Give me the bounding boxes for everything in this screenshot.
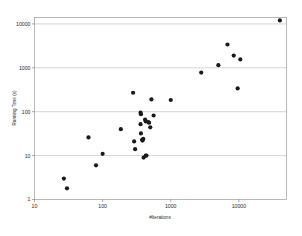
x-tick-label: 10000: [232, 203, 247, 209]
x-tick-label: 1000: [165, 203, 177, 209]
data-point: [216, 63, 220, 67]
scatter-plot-figure: 10100100010000 110100100010000 #Iteratio…: [0, 0, 302, 236]
data-point: [238, 57, 242, 61]
y-tick-label: 10000: [16, 21, 31, 27]
y-axis-title: Running Time (s): [12, 90, 17, 125]
data-point: [199, 70, 203, 74]
data-point: [236, 86, 240, 90]
data-point: [132, 139, 136, 143]
data-point: [148, 125, 152, 129]
data-point: [144, 154, 148, 158]
data-point: [139, 131, 143, 135]
data-point: [119, 127, 123, 131]
y-tick-label: 100: [22, 109, 31, 115]
data-point: [62, 176, 66, 180]
x-tick-label: 10: [32, 203, 38, 209]
chart-background: [0, 0, 302, 236]
data-point: [278, 18, 282, 22]
x-tick-label: 100: [98, 203, 107, 209]
data-point: [138, 122, 142, 126]
x-axis-title: #Iterations: [149, 215, 171, 220]
data-point: [169, 98, 173, 102]
data-point: [225, 42, 229, 46]
data-point: [86, 135, 90, 139]
data-point: [152, 113, 156, 117]
data-point: [149, 97, 153, 101]
data-point: [232, 53, 236, 57]
data-point: [65, 186, 69, 190]
y-tick-label: 1000: [19, 65, 31, 71]
data-point: [133, 147, 137, 151]
y-tick-label: 10: [25, 153, 31, 159]
data-point: [131, 91, 135, 95]
data-point: [139, 112, 143, 116]
data-point: [94, 163, 98, 167]
y-tick-label: 1: [28, 196, 31, 202]
data-point: [147, 121, 151, 125]
data-point: [101, 152, 105, 156]
data-point: [141, 137, 145, 141]
chart-svg: 10100100010000 110100100010000 #Iteratio…: [0, 0, 302, 236]
